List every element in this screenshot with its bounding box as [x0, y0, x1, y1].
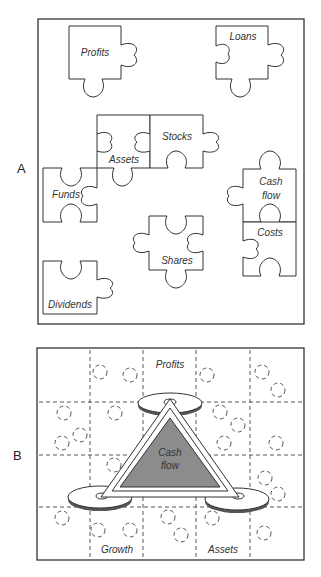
panel-b-label: B — [13, 448, 22, 463]
corner-label-assets: Assets — [207, 544, 238, 555]
corner-label-growth: Growth — [101, 544, 134, 555]
svg-text:Funds: Funds — [52, 189, 80, 200]
svg-text:Shares: Shares — [161, 255, 193, 266]
panel-b: B — [13, 348, 304, 560]
svg-text:Profits: Profits — [81, 47, 109, 58]
svg-text:Costs: Costs — [257, 227, 283, 238]
svg-text:flow: flow — [262, 190, 281, 201]
panel-a: A Profits Loans Assets Stocks Funds — [17, 19, 304, 324]
svg-text:Loans: Loans — [229, 31, 256, 42]
svg-text:flow: flow — [161, 460, 180, 471]
svg-text:Dividends: Dividends — [48, 299, 92, 310]
svg-text:Stocks: Stocks — [162, 131, 192, 142]
svg-text:Assets: Assets — [108, 154, 139, 165]
diagram-canvas: A Profits Loans Assets Stocks Funds — [0, 0, 321, 577]
panel-a-label: A — [17, 161, 26, 176]
svg-text:Cash: Cash — [158, 447, 182, 458]
svg-text:Cash: Cash — [259, 176, 283, 187]
corner-label-profits: Profits — [156, 359, 184, 370]
